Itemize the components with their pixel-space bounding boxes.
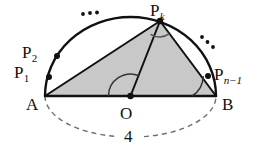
label-p2-sub: 2: [32, 52, 38, 64]
label-pk-sub: k: [160, 10, 165, 22]
label-point-pk: Pk: [150, 2, 165, 22]
label-point-p2: P2: [22, 44, 37, 64]
geometry-figure: Pk P2 P1 Pn−1 A B O 4: [0, 0, 271, 158]
label-p1-base: P: [14, 63, 24, 82]
label-diameter-measure: 4: [124, 128, 133, 145]
label-pn1-sub: n−1: [224, 74, 242, 86]
label-point-o: O: [120, 105, 132, 122]
label-point-p1: P1: [14, 64, 29, 84]
label-pk-base: P: [150, 1, 160, 20]
label-point-a: A: [26, 96, 38, 113]
label-point-b: B: [222, 96, 234, 113]
ellipsis-right-icon: [200, 35, 215, 49]
label-pn1-base: P: [214, 65, 224, 84]
ellipsis-left-icon: [81, 11, 99, 16]
lower-dashed-arc-right: [144, 96, 216, 137]
point-dot-p1: [46, 74, 52, 80]
label-point-pn-1: Pn−1: [214, 66, 242, 86]
label-p1-sub: 1: [24, 72, 30, 84]
lower-dashed-arc-left: [45, 96, 118, 137]
point-dot-o: [127, 93, 133, 99]
label-p2-base: P: [22, 43, 32, 62]
shaded-triangle: [45, 21, 216, 96]
point-dot-p2: [54, 53, 60, 59]
point-dot-pn-1: [205, 73, 211, 79]
